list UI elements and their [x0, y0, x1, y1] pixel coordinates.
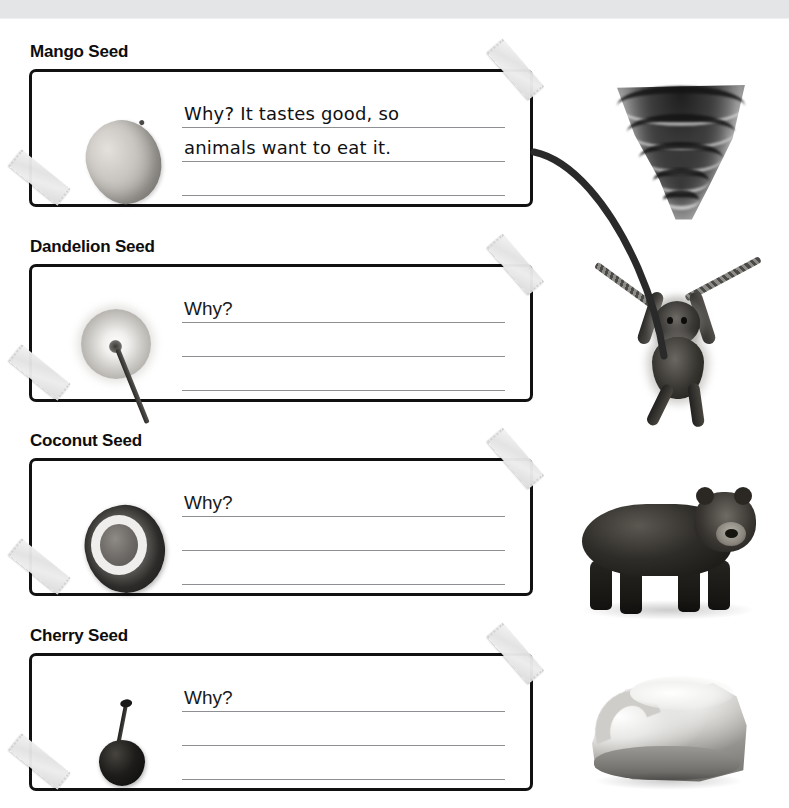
- section-title-dandelion: Dandelion Seed: [30, 237, 155, 257]
- writing-line[interactable]: Why?: [182, 678, 505, 712]
- writing-line[interactable]: [182, 551, 505, 585]
- tornado-image: [603, 72, 763, 232]
- writing-line[interactable]: [182, 746, 505, 780]
- writing-lines-mango: Why? It tastes good, so animals want to …: [182, 94, 505, 196]
- why-prompt: Why?: [184, 492, 233, 514]
- why-prompt: Why?: [184, 687, 233, 709]
- writing-lines-coconut: Why?: [182, 483, 505, 585]
- writing-line[interactable]: [182, 357, 505, 391]
- writing-lines-cherry: Why?: [182, 678, 505, 780]
- dandelion-seed-image: [79, 307, 175, 403]
- why-prompt: Why?: [184, 298, 233, 320]
- section-title-coconut: Coconut Seed: [30, 431, 142, 451]
- cherry-seed-image: [79, 696, 175, 792]
- section-title-cherry: Cherry Seed: [30, 626, 128, 646]
- writing-line[interactable]: animals want to eat it.: [182, 128, 505, 162]
- page-header-strip: [0, 0, 789, 19]
- answer-text-line-1: Why? It tastes good, so: [184, 103, 399, 124]
- section-title-mango: Mango Seed: [30, 42, 128, 62]
- answer-box-coconut[interactable]: Why?: [29, 458, 533, 596]
- bear-image: [566, 478, 770, 620]
- writing-line[interactable]: [182, 323, 505, 357]
- writing-line[interactable]: Why?: [182, 289, 505, 323]
- writing-line[interactable]: Why? It tastes good, so: [182, 94, 505, 128]
- writing-line[interactable]: [182, 517, 505, 551]
- coconut-seed-image: [79, 501, 175, 597]
- answer-box-mango[interactable]: Why? It tastes good, so animals want to …: [29, 69, 533, 207]
- writing-line[interactable]: [182, 162, 505, 196]
- mango-seed-image: [79, 112, 175, 208]
- wave-image: [576, 668, 756, 792]
- writing-line[interactable]: [182, 712, 505, 746]
- answer-box-cherry[interactable]: Why?: [29, 653, 533, 791]
- writing-lines-dandelion: Why?: [182, 289, 505, 391]
- answer-text-line-2: animals want to eat it.: [184, 137, 391, 158]
- worksheet-page: Mango Seed Why? It tastes good, so anima…: [0, 0, 789, 808]
- answer-box-dandelion[interactable]: Why?: [29, 264, 533, 402]
- writing-line[interactable]: Why?: [182, 483, 505, 517]
- monkey-image: [590, 255, 770, 445]
